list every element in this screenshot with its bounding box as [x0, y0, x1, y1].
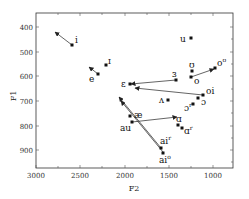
y-tick-800: 800 — [20, 123, 33, 131]
label-aw: ɔ — [201, 97, 206, 107]
x-tick-1500: 1500 — [160, 172, 178, 180]
y-axis-label: F1 — [9, 91, 18, 102]
x-axis-label: F2 — [129, 184, 140, 193]
label-u: u — [180, 34, 186, 44]
label-e: e — [89, 74, 94, 84]
label-i: i — [75, 35, 78, 45]
formant-chart: 3000 2500 2000 1500 1000 400 500 600 700… — [0, 0, 249, 199]
x-tick-2500: 2500 — [71, 172, 89, 180]
label-uh: ʊ — [189, 60, 195, 70]
label-o: o — [194, 76, 199, 86]
trajectory-arrows — [55, 32, 214, 152]
y-tick-600: 600 — [20, 73, 33, 81]
label-uh2: ʌ — [158, 95, 165, 105]
y-tick-500: 500 — [20, 49, 33, 57]
label-a: ɑ — [176, 114, 182, 124]
y-tick-900: 900 — [20, 147, 33, 155]
label-ae: æ — [134, 110, 142, 120]
y-tick-700: 700 — [20, 98, 33, 106]
y-tick-labels: 400 500 600 700 800 900 — [20, 24, 33, 155]
x-tick-2000: 2000 — [116, 172, 134, 180]
label-ou: oʊ — [217, 56, 226, 68]
label-ih: ɪ — [108, 56, 111, 66]
label-au: au — [120, 123, 131, 133]
x-tick-1000: 1000 — [204, 172, 222, 180]
plot-frame — [36, 13, 233, 168]
label-ar: ɑr — [184, 124, 193, 136]
label-ai: aio — [159, 153, 171, 165]
label-oi: oi — [206, 86, 214, 96]
label-air: air — [160, 134, 171, 146]
label-er: ɜ — [172, 69, 177, 79]
x-tick-labels: 3000 2500 2000 1500 1000 — [27, 172, 222, 180]
vowel-labels: i ɪ e u ʊ o oʊ ɜ ɛ oi ʌ ɔ ɔr æ au ɑ ɑr a… — [75, 34, 226, 165]
label-awr: ɔr — [184, 101, 192, 113]
x-tick-3000: 3000 — [27, 172, 45, 180]
y-tick-400: 400 — [20, 24, 33, 32]
vowel-points — [71, 37, 217, 155]
x-axis-ticks — [36, 13, 213, 168]
label-eh: ɛ — [121, 79, 126, 89]
